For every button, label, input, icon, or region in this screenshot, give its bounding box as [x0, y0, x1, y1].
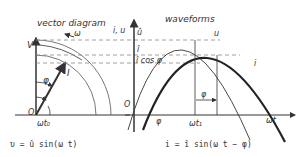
omega-arrow-icon [65, 34, 74, 37]
u-curve-label: u [214, 29, 219, 38]
current-equation: i = î sin(ω t − φ) [165, 140, 252, 149]
current-circle-arc [36, 55, 96, 115]
waveforms-title: waveforms [165, 14, 215, 24]
phasor-diagram-canvas: vector diagram ω V I φ O ωt₀ waveforms i… [0, 0, 297, 157]
i-hat-label: î [137, 45, 140, 54]
current-phasor-arrow [36, 63, 65, 115]
phi-bottom-label: φ [156, 117, 162, 126]
wt0-arc [48, 106, 50, 115]
i-cos-phi-label: î cos φ [136, 56, 163, 65]
vector-origin-label: O [28, 108, 34, 117]
wt1-label: ωt₁ [189, 119, 202, 128]
waveform-origin-label: O [124, 100, 130, 109]
waveform-y-label: i, u [113, 26, 125, 35]
phi-vector-label: φ [43, 75, 49, 85]
v-axis-label: V [27, 40, 34, 50]
wt0-label: ωt₀ [37, 119, 51, 128]
rotation-arc [40, 45, 82, 60]
x-axis-label: ωt [266, 116, 277, 125]
i-curve-label: i [254, 59, 257, 68]
vector-diagram-title: vector diagram [37, 18, 106, 28]
phi-shift-label: φ [201, 90, 207, 99]
i-phasor-label: I [67, 68, 70, 78]
u-hat-label: û [137, 27, 142, 37]
voltage-equation: υ = û sin(ω t) [10, 140, 77, 149]
omega-label: ω [74, 29, 81, 38]
